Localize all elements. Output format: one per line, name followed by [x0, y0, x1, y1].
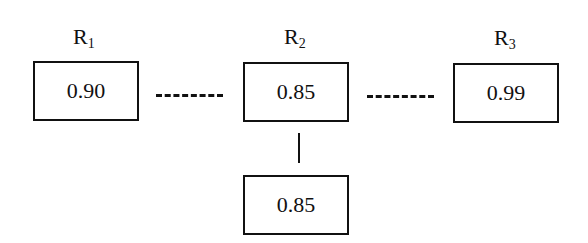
r2-block: 0.85	[243, 62, 349, 122]
r2-label-main: R	[284, 24, 299, 49]
connector-r1-r2-dashed	[156, 94, 223, 97]
r2-label-subscript: 2	[299, 36, 306, 51]
r1-block: 0.90	[33, 61, 139, 121]
r2-reliability-value: 0.85	[277, 79, 316, 105]
r3-label: R3	[494, 27, 516, 52]
r3-reliability-value: 0.99	[487, 80, 526, 106]
r3-label-main: R	[494, 25, 509, 50]
connector-r2-r3-dashed	[367, 95, 434, 98]
r2-redundant-block: 0.85	[243, 175, 349, 235]
connector-r2-r2b-solid	[298, 133, 300, 163]
r1-reliability-value: 0.90	[67, 78, 106, 104]
r3-label-subscript: 3	[509, 37, 516, 52]
r2-label: R2	[284, 26, 306, 51]
r1-label-subscript: 1	[88, 36, 95, 51]
r3-block: 0.99	[453, 63, 559, 123]
r1-label-main: R	[73, 24, 88, 49]
r2-redundant-reliability-value: 0.85	[277, 192, 316, 218]
r1-label: R1	[73, 26, 95, 51]
